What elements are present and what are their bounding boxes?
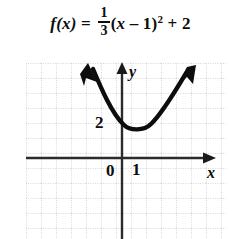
origin-label: 0	[106, 162, 115, 179]
coordinate-plane: y x 0 1 2	[0, 52, 241, 239]
equation-constant: 2	[182, 14, 191, 33]
equation-fraction-one-third: 1 3	[98, 6, 109, 39]
graph-svg	[0, 52, 241, 239]
equation-equals-sign: =	[81, 14, 91, 33]
equation-variable: x	[117, 14, 126, 33]
y-axis-label: y	[129, 64, 136, 80]
fraction-numerator: 1	[98, 6, 109, 20]
equation-lhs: f(x)	[50, 14, 76, 33]
y-tick-label-two: 2	[95, 114, 104, 131]
equation-minus-sign: –	[130, 14, 139, 33]
x-axis-label: x	[207, 165, 215, 181]
graph-figure: f(x) = 1 3 (x – 1)2 + 2	[0, 0, 241, 239]
equation-plus-sign: +	[168, 14, 178, 33]
equation-exponent: 2	[157, 13, 163, 25]
equation-inner-constant: 1	[143, 14, 152, 33]
function-equation: f(x) = 1 3 (x – 1)2 + 2	[0, 6, 241, 39]
fraction-denominator: 3	[98, 24, 109, 38]
x-tick-label-one: 1	[132, 161, 141, 178]
grid-lines	[26, 63, 226, 239]
